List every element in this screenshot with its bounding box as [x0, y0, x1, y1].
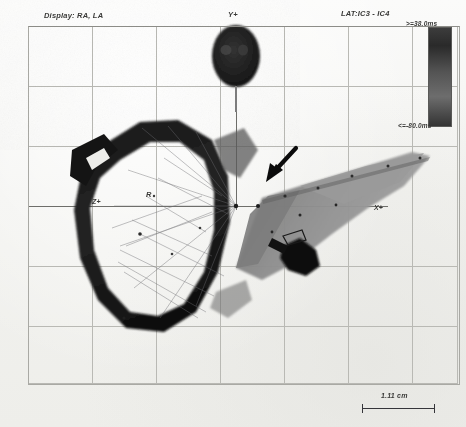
colorbar-min-label: <=-80.0ms [398, 122, 432, 129]
scale-bar-label: 1.11 cm [381, 392, 408, 399]
axis-label-z: Z+ [92, 198, 101, 205]
origin-label: R [146, 190, 152, 199]
lat-colorbar[interactable] [428, 27, 452, 127]
lat-label: LAT:IC3 - IC4 [341, 9, 390, 18]
axis-label-x: X+ [374, 204, 383, 211]
scan-grain [0, 0, 300, 150]
colorbar-max-label: >=38.0ms [406, 20, 437, 27]
scale-bar [362, 404, 435, 412]
map-viewport: Display: RA, LA LAT:IC3 - IC4 >=38.0ms <… [0, 0, 466, 427]
